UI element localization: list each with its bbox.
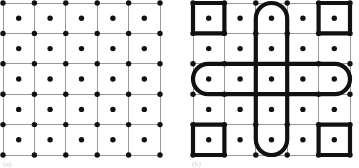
lattice-panel-a bbox=[0, 0, 170, 168]
figure-root: (a) (b) bbox=[0, 0, 359, 168]
panel-b-caption: (b) bbox=[192, 160, 201, 168]
lattice-svg-b bbox=[189, 0, 359, 168]
lattice-panel-b bbox=[189, 0, 359, 168]
lattice-svg-a bbox=[0, 0, 170, 168]
panel-a-caption: (a) bbox=[3, 160, 12, 168]
